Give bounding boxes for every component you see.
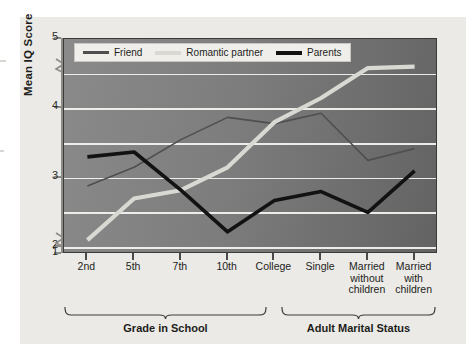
x-tick-6	[366, 253, 368, 260]
x-tick-1	[132, 253, 134, 260]
legend-item-romantic-partner: Romantic partner	[155, 47, 263, 58]
legend: FriendRomantic partnerParents	[74, 43, 351, 62]
x-tick-0	[85, 253, 87, 260]
group-brace-grade	[63, 306, 268, 320]
x-tick-3	[226, 253, 228, 260]
legend-swatch-icon-1	[155, 51, 181, 55]
scan-edge-artifact	[0, 60, 6, 62]
y-axis-title: Mean IQ Score	[22, 14, 34, 97]
series-line-parents	[87, 152, 414, 232]
legend-label-0: Friend	[114, 47, 142, 58]
y-tick-label-4: 4	[38, 99, 58, 111]
y-tick-label-3: 3	[38, 169, 58, 181]
legend-item-friend: Friend	[83, 47, 142, 58]
figure-page: Mean IQ Score 54321 FriendRomantic partn…	[0, 0, 474, 361]
series-lines	[64, 39, 437, 253]
y-tick-label-5: 5	[38, 30, 58, 42]
legend-label-1: Romantic partner	[186, 47, 263, 58]
x-tick-label-7: Married with children	[379, 261, 449, 296]
legend-swatch-icon-0	[83, 51, 109, 54]
series-line-friend	[87, 113, 414, 186]
scan-edge-artifact-2	[0, 150, 4, 152]
legend-item-parents: Parents	[276, 47, 341, 58]
plot-area	[63, 38, 437, 253]
group-brace-marital	[280, 306, 437, 320]
x-tick-4	[272, 253, 274, 260]
x-tick-2	[179, 253, 181, 260]
x-tick-7	[413, 253, 415, 260]
group-label-marital: Adult Marital Status	[280, 322, 437, 334]
group-label-grade: Grade in School	[63, 322, 268, 334]
x-tick-5	[319, 253, 321, 260]
legend-swatch-icon-2	[276, 51, 302, 55]
legend-label-2: Parents	[307, 47, 341, 58]
